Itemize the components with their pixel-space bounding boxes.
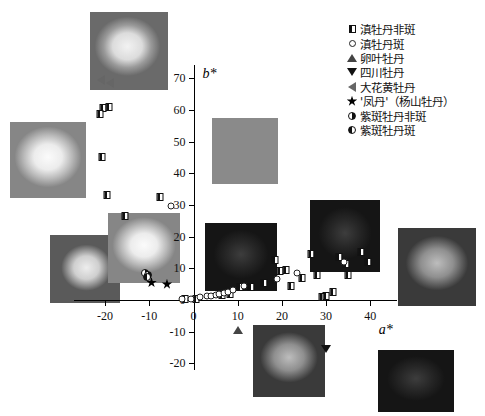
x-tick-label: -20 xyxy=(97,309,113,324)
y-tick-label: 10 xyxy=(154,261,186,276)
half-square-marker xyxy=(272,256,279,264)
x-tick-label: 20 xyxy=(276,309,288,324)
data-point xyxy=(321,345,331,353)
legend-marker-slot xyxy=(344,40,360,47)
x-tick-label: 30 xyxy=(320,309,332,324)
peony-photo-bottom-right xyxy=(378,350,454,412)
y-tick-label: 70 xyxy=(154,71,186,86)
legend-marker-slot xyxy=(344,82,360,92)
circle-marker-legend xyxy=(349,40,356,47)
legend-marker-slot xyxy=(344,68,360,76)
data-point xyxy=(272,256,279,264)
y-tick xyxy=(189,237,194,238)
data-point xyxy=(329,288,336,296)
legend-marker-slot xyxy=(344,54,360,62)
circle-marker xyxy=(294,270,301,277)
half-square-marker xyxy=(287,282,294,290)
half-square-marker xyxy=(307,250,314,258)
legend-item-2: 滇牡丹斑 xyxy=(344,36,484,50)
circle-marker xyxy=(230,287,237,294)
data-point xyxy=(241,282,248,289)
data-point xyxy=(340,258,347,265)
triangle-left-marker-legend xyxy=(348,82,356,92)
y-tick xyxy=(189,78,194,79)
y-axis-title: b* xyxy=(203,66,217,82)
half-square-marker xyxy=(121,212,128,220)
x-axis-title: a* xyxy=(379,322,393,338)
x-tick xyxy=(149,301,150,306)
data-point xyxy=(358,248,365,256)
legend-item-6: '凤丹'（杨山牡丹） xyxy=(344,94,484,108)
y-tick xyxy=(189,205,194,206)
data-point xyxy=(287,282,294,290)
y-tick-label: 50 xyxy=(154,134,186,149)
x-tick xyxy=(282,301,283,306)
photo-image xyxy=(378,350,454,412)
y-tick-label: 40 xyxy=(154,166,186,181)
x-tick xyxy=(326,301,327,306)
circle-marker xyxy=(168,203,175,210)
y-tick xyxy=(189,173,194,174)
triangle-up-marker xyxy=(233,326,243,334)
x-tick xyxy=(105,301,106,306)
y-tick-label: -20 xyxy=(154,356,186,371)
photo-image xyxy=(10,122,86,198)
triangle-down-marker xyxy=(321,345,331,353)
legend-item-7: 紫斑牡丹非斑 xyxy=(344,108,484,122)
half-square-marker xyxy=(365,258,372,266)
data-point xyxy=(179,296,186,303)
star-marker-legend xyxy=(347,96,358,107)
data-point xyxy=(188,296,195,303)
legend-marker-slot xyxy=(344,126,360,134)
legend-item-5: 大花黄牡丹 xyxy=(344,80,484,94)
data-point xyxy=(104,191,111,199)
data-point xyxy=(168,203,175,210)
data-point xyxy=(345,271,352,279)
star-marker xyxy=(161,279,172,290)
legend-item-4: 四川牡丹 xyxy=(344,65,484,79)
data-point xyxy=(247,283,254,291)
circle-marker xyxy=(188,296,195,303)
x-axis-line xyxy=(74,300,397,301)
peony-photo-left-upper xyxy=(10,122,86,198)
data-point xyxy=(261,279,268,287)
half-square-marker xyxy=(283,266,290,274)
data-point xyxy=(97,75,105,85)
half-square-marker xyxy=(358,248,365,256)
half-square-marker xyxy=(157,193,164,201)
data-point xyxy=(294,270,301,277)
data-point xyxy=(98,153,105,161)
legend-item-8: 紫斑牡丹斑 xyxy=(344,123,484,137)
half-square-marker xyxy=(329,288,336,296)
data-point xyxy=(233,326,243,334)
photo-image xyxy=(253,325,325,397)
circle-marker xyxy=(179,296,186,303)
x-tick xyxy=(238,301,239,306)
half-square-marker xyxy=(345,271,352,279)
triangle-left-marker xyxy=(106,78,114,88)
half-square-marker xyxy=(104,191,111,199)
half-circle-right-marker-legend xyxy=(348,112,356,120)
legend-marker-slot xyxy=(344,96,360,107)
scatter-plot-figure: a* b* -20-10010203040-20-100102030405060… xyxy=(0,0,485,416)
y-tick xyxy=(189,363,194,364)
data-point xyxy=(365,258,372,266)
photo-image xyxy=(398,228,476,306)
x-tick-label: 40 xyxy=(364,309,376,324)
legend-marker-slot xyxy=(344,112,360,120)
half-square-marker xyxy=(314,271,321,279)
half-circle-left-marker xyxy=(143,273,151,281)
y-tick xyxy=(189,110,194,111)
triangle-down-marker-legend xyxy=(347,68,357,76)
x-tick xyxy=(370,301,371,306)
half-circle-left-marker-legend xyxy=(348,126,356,134)
data-point xyxy=(230,287,237,294)
data-point xyxy=(314,271,321,279)
x-tick-label: -10 xyxy=(141,309,157,324)
legend-marker-slot xyxy=(344,25,360,33)
legend-item-1: 滇牡丹非斑 xyxy=(344,22,484,36)
data-point xyxy=(106,78,114,88)
half-square-marker xyxy=(96,110,103,118)
photo-image xyxy=(212,118,278,184)
data-point xyxy=(307,250,314,258)
